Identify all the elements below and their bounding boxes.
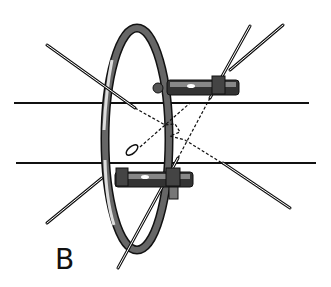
panel-label: B	[55, 246, 74, 274]
illustration-canvas: B	[0, 0, 331, 287]
fixator-illustration	[0, 0, 331, 287]
fixator-ring	[104, 28, 169, 250]
hidden-wire-paths	[135, 98, 222, 163]
